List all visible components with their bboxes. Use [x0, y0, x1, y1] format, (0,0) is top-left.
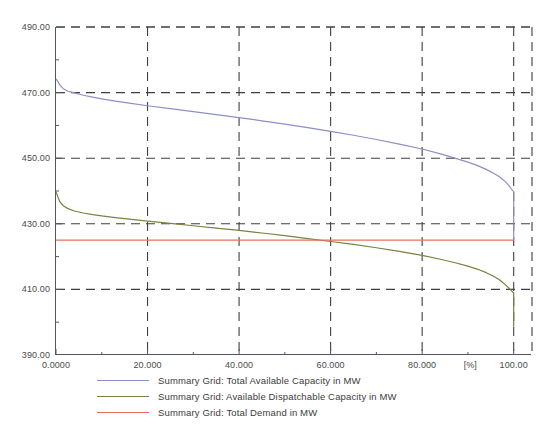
y-axis-tick-label: 410.00: [22, 284, 50, 294]
x-axis-tick-label: 40.000: [225, 360, 253, 370]
y-axis-tick-label: 490.00: [22, 22, 50, 32]
x-axis-tick-label: 60.000: [317, 360, 345, 370]
y-axis-tick-label: 470.00: [22, 88, 50, 98]
chart-root: 390.00410.00430.00450.00470.00490.00 0.0…: [0, 0, 545, 433]
legend-item-label: Summary Grid: Available Dispatchable Cap…: [158, 391, 397, 402]
y-axis-tick-label: 430.00: [22, 219, 50, 229]
legend-item-label: Summary Grid: Total Available Capacity i…: [158, 375, 361, 386]
legend-item-2[interactable]: Summary Grid: Available Dispatchable Cap…: [0, 388, 545, 404]
chart-legend: Summary Grid: Total Available Capacity i…: [0, 372, 545, 420]
legend-color-swatch: [97, 412, 149, 413]
y-axis-tick-label: 450.00: [22, 153, 50, 163]
series-layer: [56, 27, 531, 354]
legend-item-3[interactable]: Summary Grid: Total Demand in MW: [0, 404, 545, 420]
plot-area: 390.00410.00430.00450.00470.00490.00 0.0…: [55, 27, 531, 355]
legend-item-label: Summary Grid: Total Demand in MW: [158, 407, 317, 418]
x-axis-tick-label: 80.000: [408, 360, 436, 370]
plot-wrapper: 390.00410.00430.00450.00470.00490.00 0.0…: [0, 0, 545, 366]
series-line-2: [56, 192, 514, 327]
x-axis-tick-label: 20.000: [133, 360, 161, 370]
legend-item-1[interactable]: Summary Grid: Total Available Capacity i…: [0, 372, 545, 388]
y-axis-tick-label: 390.00: [22, 350, 50, 360]
legend-color-swatch: [97, 380, 149, 381]
x-axis-tick-label: 100.00: [500, 360, 528, 370]
series-svg: [56, 27, 532, 355]
legend-color-swatch: [97, 396, 149, 397]
x-axis-tick-label: 0.0000: [42, 360, 70, 370]
series-line-1: [56, 79, 514, 240]
x-axis-unit-label: [%]: [464, 360, 477, 370]
